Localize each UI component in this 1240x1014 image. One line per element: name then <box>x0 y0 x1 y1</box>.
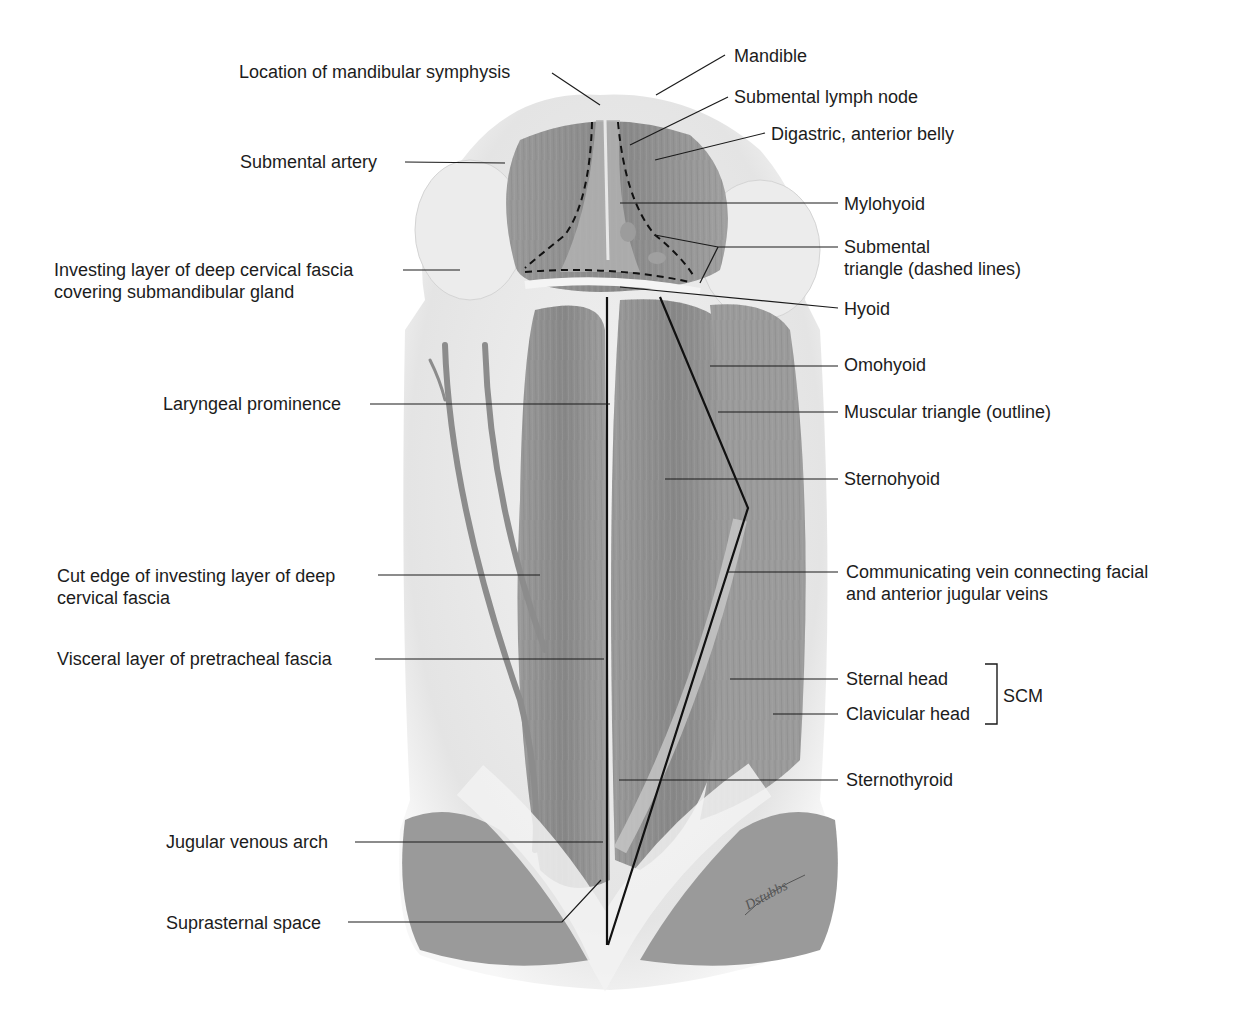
label-sternothyroid: Sternothyroid <box>846 769 953 791</box>
label-mylohyoid: Mylohyoid <box>844 193 925 215</box>
label-clavicular-head: Clavicular head <box>846 703 970 725</box>
label-laryngeal-prominence: Laryngeal prominence <box>163 393 341 415</box>
label-digastric: Digastric, anterior belly <box>771 123 954 145</box>
label-investing-layer-line2: covering submandibular gland <box>54 281 353 303</box>
label-scm: SCM <box>1003 685 1043 707</box>
label-hyoid: Hyoid <box>844 298 890 320</box>
label-communicating-vein-line2: and anterior jugular veins <box>846 583 1148 605</box>
label-suprasternal-space: Suprasternal space <box>166 912 321 934</box>
label-investing-layer: Investing layer of deep cervical fascia … <box>54 259 353 303</box>
submental-region <box>506 120 728 292</box>
label-cut-edge: Cut edge of investing layer of deep cerv… <box>57 565 335 609</box>
label-communicating-vein: Communicating vein connecting facial and… <box>846 561 1148 605</box>
label-sternohyoid: Sternohyoid <box>844 468 940 490</box>
neck-anatomy-illustration: Dstubbs <box>0 0 1240 1014</box>
label-submental-triangle: Submental triangle (dashed lines) <box>844 236 1021 280</box>
label-jugular-arch: Jugular venous arch <box>166 831 328 853</box>
label-submental-lymph-node: Submental lymph node <box>734 86 918 108</box>
label-mandibular-symphysis: Location of mandibular symphysis <box>239 61 510 83</box>
scm-bracket <box>985 664 997 724</box>
label-cut-edge-line1: Cut edge of investing layer of deep <box>57 565 335 587</box>
label-muscular-triangle: Muscular triangle (outline) <box>844 401 1051 423</box>
label-submental-triangle-line2: triangle (dashed lines) <box>844 258 1021 280</box>
label-communicating-vein-line1: Communicating vein connecting facial <box>846 561 1148 583</box>
label-cut-edge-line2: cervical fascia <box>57 587 335 609</box>
label-visceral-layer: Visceral layer of pretracheal fascia <box>57 648 332 670</box>
label-investing-layer-line1: Investing layer of deep cervical fascia <box>54 259 353 281</box>
label-submental-triangle-line1: Submental <box>844 236 1021 258</box>
label-submental-artery: Submental artery <box>240 151 377 173</box>
label-sternal-head: Sternal head <box>846 668 948 690</box>
label-mandible: Mandible <box>734 45 807 67</box>
label-omohyoid: Omohyoid <box>844 354 926 376</box>
